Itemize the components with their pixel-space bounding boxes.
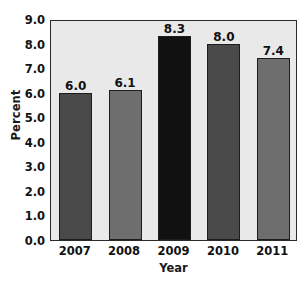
bar [257,58,290,240]
bar-value-label: 8.3 [148,22,201,36]
x-axis-tick-label: 2011 [247,244,297,258]
x-axis-tick-label: 2009 [149,244,199,258]
y-axis-tick-label: 8.0 [14,38,45,52]
clipped-chart-title [50,0,297,4]
y-axis-tick-label: 0.0 [14,234,45,248]
y-axis-tick-label: 9.0 [14,13,45,27]
bar-value-label: 6.0 [49,79,102,93]
bar [158,36,191,240]
bar-value-label: 8.0 [197,30,250,44]
y-axis-tick-label: 3.0 [14,160,45,174]
bar-chart-figure: Percent 0.01.02.03.04.05.06.07.08.09.0 6… [0,0,307,281]
bar-value-label: 6.1 [99,76,152,90]
x-axis-tick-label: 2007 [50,244,100,258]
bar-value-label: 7.4 [247,44,300,58]
bar [109,90,142,240]
y-axis-tick-label: 7.0 [14,62,45,76]
y-axis-tick-label: 4.0 [14,136,45,150]
x-axis-tick-labels: 20072008200920102011 [50,244,297,260]
x-axis-tick-label: 2010 [198,244,248,258]
y-axis-tick-label: 5.0 [14,111,45,125]
x-axis-tick-label: 2008 [99,244,149,258]
x-axis-title: Year [50,261,297,275]
y-axis-tick-label: 2.0 [14,185,45,199]
y-axis-tick-labels: 0.01.02.03.04.05.06.07.08.09.0 [14,20,45,241]
plot-area: 6.06.18.38.07.4 [50,20,297,241]
bar [207,44,240,240]
y-axis-tick-label: 6.0 [14,87,45,101]
bar [59,93,92,240]
y-axis-tick-label: 1.0 [14,209,45,223]
